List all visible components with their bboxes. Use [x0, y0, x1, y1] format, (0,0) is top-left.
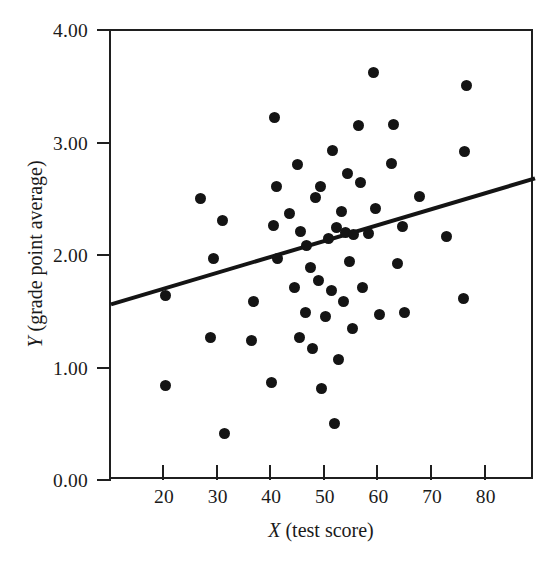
- y-tick: 0.00: [97, 479, 111, 481]
- data-point: [305, 262, 316, 273]
- data-point: [397, 221, 408, 232]
- x-tick: 40: [269, 465, 271, 480]
- regression-line: [111, 31, 535, 481]
- data-point: [160, 290, 171, 301]
- scatter-plot-figure: Y (grade point average) X (test score) 0…: [0, 0, 560, 573]
- data-point: [414, 191, 425, 202]
- data-point: [459, 146, 470, 157]
- x-tick-label: 50: [315, 480, 335, 508]
- data-point: [284, 208, 295, 219]
- data-point: [271, 181, 282, 192]
- data-point: [160, 380, 171, 391]
- data-point: [292, 159, 303, 170]
- x-axis-title-text: (test score): [280, 519, 373, 541]
- x-axis-variable: X: [268, 519, 280, 541]
- data-point: [315, 181, 326, 192]
- data-point: [295, 226, 306, 237]
- x-tick-label: 30: [208, 480, 228, 508]
- data-point: [294, 332, 305, 343]
- data-point: [353, 120, 364, 131]
- data-point: [374, 309, 385, 320]
- data-point: [323, 233, 334, 244]
- data-point: [266, 377, 277, 388]
- data-point: [458, 293, 469, 304]
- data-point: [307, 343, 318, 354]
- y-tick: 3.00: [97, 142, 111, 144]
- data-point: [310, 192, 321, 203]
- x-tick-label: 80: [476, 480, 496, 508]
- y-axis-title-text: (grade point average): [24, 160, 46, 336]
- data-point: [336, 206, 347, 217]
- y-tick-label: 0.00: [53, 470, 97, 492]
- y-tick: 1.00: [97, 367, 111, 369]
- x-tick-label: 70: [422, 480, 442, 508]
- y-tick-label: 1.00: [53, 357, 97, 379]
- plot-area: [109, 29, 533, 479]
- y-tick-label: 4.00: [53, 20, 97, 42]
- data-point: [399, 307, 410, 318]
- data-point: [246, 335, 257, 346]
- data-point: [208, 253, 219, 264]
- data-point: [300, 307, 311, 318]
- y-tick: 2.00: [97, 254, 111, 256]
- data-point: [441, 231, 452, 242]
- x-tick-label: 20: [154, 480, 174, 508]
- y-tick-label: 3.00: [53, 132, 97, 154]
- x-tick: 70: [430, 465, 432, 480]
- x-axis-title: X (test score): [109, 519, 533, 542]
- x-tick-label: 60: [369, 480, 389, 508]
- data-point: [205, 332, 216, 343]
- data-point: [461, 80, 472, 91]
- data-point: [268, 220, 279, 231]
- y-tick-label: 2.00: [53, 245, 97, 267]
- x-tick-label: 40: [261, 480, 281, 508]
- data-point: [347, 323, 358, 334]
- data-point: [388, 119, 399, 130]
- x-tick: 30: [216, 465, 218, 480]
- y-tick: 4.00: [97, 29, 111, 31]
- data-point: [248, 296, 259, 307]
- data-point: [272, 253, 283, 264]
- x-tick: 80: [484, 465, 486, 480]
- data-point: [370, 203, 381, 214]
- data-point: [217, 215, 228, 226]
- data-point: [338, 296, 349, 307]
- x-tick: 60: [376, 465, 378, 480]
- y-axis-variable: Y: [24, 336, 46, 347]
- y-axis-title: Y (grade point average): [18, 29, 52, 479]
- x-tick: 50: [323, 465, 325, 480]
- x-tick: 20: [162, 465, 164, 480]
- data-point: [368, 67, 379, 78]
- data-point: [219, 428, 230, 439]
